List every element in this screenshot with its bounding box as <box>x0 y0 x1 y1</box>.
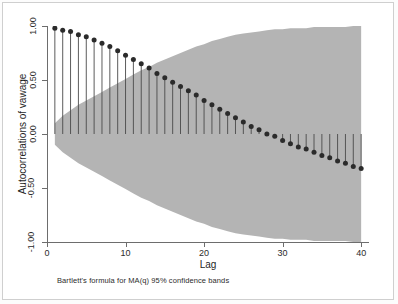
x-tick-label: 10 <box>113 248 139 258</box>
acf-marker <box>312 150 317 155</box>
acf-marker <box>351 164 356 169</box>
y-tick-label: 0.50 <box>28 71 38 89</box>
acf-marker <box>202 98 207 103</box>
acf-marker <box>162 75 167 80</box>
acf-marker <box>280 138 285 143</box>
acf-marker <box>170 80 175 85</box>
acf-marker <box>272 134 277 139</box>
acf-marker <box>296 144 301 149</box>
acf-marker <box>257 127 262 132</box>
acf-marker <box>115 48 120 53</box>
x-tick-label: 40 <box>348 248 374 258</box>
acf-marker <box>304 147 309 152</box>
x-tick-mark <box>361 243 362 247</box>
acf-marker <box>99 41 104 46</box>
acf-marker <box>186 88 191 93</box>
x-tick-mark <box>283 243 284 247</box>
acf-marker <box>209 102 214 107</box>
x-tick-label: 20 <box>191 248 217 258</box>
x-tick-label: 30 <box>270 248 296 258</box>
x-tick-mark <box>204 243 205 247</box>
acf-marker <box>68 29 73 34</box>
acf-marker <box>249 124 254 129</box>
acf-marker <box>335 159 340 164</box>
acf-stems-and-markers <box>47 26 369 242</box>
acf-marker <box>327 155 332 160</box>
y-tick-label-wrap: 0.50 <box>22 64 42 96</box>
x-tick-label: 0 <box>34 248 60 258</box>
acf-marker <box>217 107 222 112</box>
acf-marker <box>319 153 324 158</box>
plot-area <box>47 26 369 242</box>
y-tick-label-wrap: -0.50 <box>22 172 42 204</box>
acf-marker <box>76 32 81 37</box>
acf-marker <box>123 53 128 58</box>
acf-marker <box>225 111 230 116</box>
acf-marker <box>92 38 97 43</box>
acf-marker <box>178 84 183 89</box>
acf-marker <box>52 26 57 31</box>
acf-marker <box>84 34 89 39</box>
x-axis-line <box>47 242 369 243</box>
acf-marker <box>288 141 293 146</box>
acf-marker <box>154 71 159 76</box>
acf-marker <box>131 57 136 62</box>
chart-note: Bartlett's formula for MA(q) 95% confide… <box>57 276 229 285</box>
acf-marker <box>264 132 269 137</box>
y-axis-line <box>47 26 48 242</box>
acf-marker <box>139 61 144 66</box>
acf-marker <box>194 93 199 98</box>
acf-marker <box>241 120 246 125</box>
acf-marker <box>343 161 348 166</box>
acf-marker <box>147 66 152 71</box>
acf-marker <box>107 44 112 49</box>
x-tick-mark <box>126 243 127 247</box>
acf-marker <box>60 28 65 33</box>
y-tick-label: 0.00 <box>28 125 38 143</box>
acf-chart-figure: Autocorrelations of vawage 1.000.500.00-… <box>0 0 398 304</box>
y-tick-label: 1.00 <box>28 17 38 35</box>
acf-marker <box>359 166 364 171</box>
x-axis-title: Lag <box>47 259 369 270</box>
x-tick-mark <box>47 243 48 247</box>
y-tick-label: -0.50 <box>27 178 37 199</box>
y-tick-label-wrap: 0.00 <box>22 118 42 150</box>
acf-marker <box>233 115 238 120</box>
y-tick-label-wrap: 1.00 <box>22 10 42 42</box>
